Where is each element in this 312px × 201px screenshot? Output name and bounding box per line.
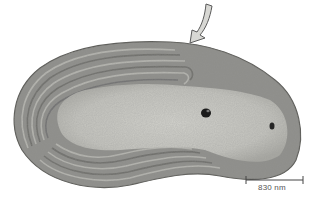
cell-body bbox=[0, 0, 312, 201]
pointer-arrow bbox=[190, 4, 212, 43]
micrograph: 830 nm bbox=[0, 0, 312, 201]
granule bbox=[201, 109, 211, 118]
cell-micrograph-image bbox=[0, 0, 312, 201]
scale-bar-label: 830 nm bbox=[258, 183, 286, 192]
granule bbox=[270, 123, 275, 130]
